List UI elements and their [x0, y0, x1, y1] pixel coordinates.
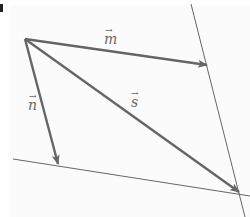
right-line	[191, 4, 245, 217]
vector-arrow-s-icon: →	[131, 88, 139, 98]
vector-arrow-n-icon: →	[29, 91, 37, 101]
vector-diagram: m → n → s →	[0, 0, 250, 217]
vector-arrow-m-icon: →	[105, 25, 113, 35]
vector-s	[25, 39, 239, 192]
bottom-line	[13, 159, 250, 196]
